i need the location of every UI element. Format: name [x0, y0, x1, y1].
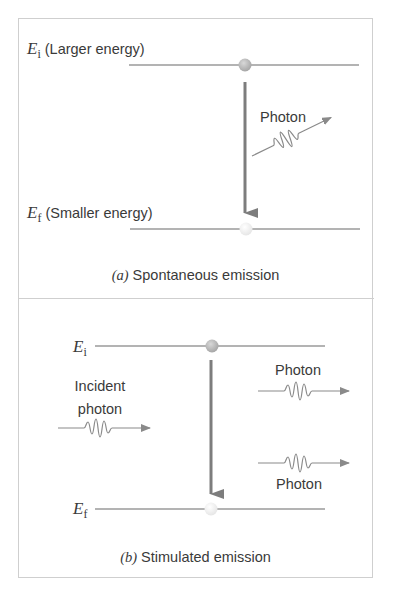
emission-diagram — [0, 0, 393, 589]
photon-label-lower-b: Photon — [276, 477, 322, 492]
incident-photon-wave-icon — [58, 419, 150, 437]
incident-label-line2: photon — [50, 398, 150, 421]
electron-empty-icon — [240, 223, 253, 236]
electron-filled-icon — [239, 59, 252, 72]
caption-letter: (a) — [112, 267, 129, 283]
electron-empty-icon — [205, 503, 218, 516]
energy-subscript: i — [37, 47, 40, 61]
caption-a: (a) Spontaneous emission — [18, 268, 373, 283]
electron-filled-icon — [206, 340, 219, 353]
lower-level-label-a: Ef (Smaller energy) — [27, 204, 153, 221]
lower-level-label-b: Ef — [73, 500, 87, 517]
upper-level-label-a: Ei (Larger energy) — [27, 40, 145, 57]
incident-photon-label: Incident photon — [50, 375, 150, 421]
upper-level-label-b: Ei — [73, 338, 87, 355]
caption-letter: (b) — [120, 549, 137, 565]
incident-label-line1: Incident — [50, 375, 150, 398]
energy-description: (Smaller energy) — [45, 205, 152, 221]
caption-text: Stimulated emission — [141, 549, 271, 565]
photon-label-upper-b: Photon — [275, 363, 321, 378]
energy-symbol: E — [27, 39, 37, 58]
energy-description: (Larger energy) — [45, 41, 145, 57]
panel-a-graphics — [129, 59, 360, 236]
photon-label-a: Photon — [260, 110, 306, 125]
emitted-photon-upper-wave-icon — [258, 382, 349, 400]
energy-symbol: E — [73, 337, 83, 356]
emitted-photon-lower-wave-icon — [258, 454, 349, 472]
caption-b: (b) Stimulated emission — [18, 550, 373, 565]
energy-symbol: E — [73, 499, 83, 518]
energy-subscript: i — [83, 345, 86, 359]
energy-symbol: E — [27, 203, 37, 222]
energy-subscript: f — [83, 507, 87, 521]
caption-text: Spontaneous emission — [133, 267, 280, 283]
energy-subscript: f — [37, 211, 41, 225]
